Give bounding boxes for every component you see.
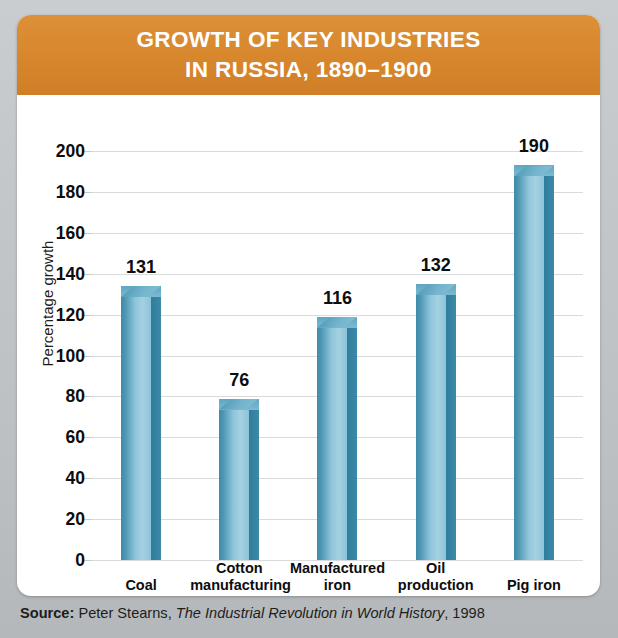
- source-author: Peter Stearns,: [78, 605, 171, 621]
- x-axis-category-label: Manufacturediron: [288, 560, 386, 594]
- x-axis-category-label: Coal: [92, 577, 190, 594]
- chart-title-line-1: GROWTH OF KEY INDUSTRIES: [136, 25, 480, 55]
- source-work-title: The Industrial Revolution in World Histo…: [176, 605, 444, 621]
- category-label-line: Coal: [92, 577, 190, 594]
- category-label-line: manufacturing: [190, 577, 288, 594]
- category-label-line: Pig iron: [485, 577, 583, 594]
- bar-side-face: [544, 165, 554, 560]
- bar-value-label: 190: [492, 136, 576, 157]
- category-label-line: Oil: [387, 560, 485, 577]
- y-axis-tick-label: 40: [66, 468, 85, 489]
- bar-side-face: [249, 399, 259, 560]
- category-label-line: Cotton: [190, 560, 288, 577]
- bar-top-face: [121, 286, 161, 297]
- bar-value-label: 131: [99, 257, 183, 278]
- bar-front-face: [317, 323, 347, 560]
- bar-top-face: [514, 165, 554, 176]
- bar[interactable]: [219, 405, 259, 560]
- source-label: Source:: [20, 605, 74, 621]
- bar-value-label: 76: [197, 370, 281, 391]
- bar-group[interactable]: 131Coal: [92, 95, 190, 560]
- y-axis-tick-label: 80: [66, 386, 85, 407]
- y-axis-tick-label: 60: [66, 427, 85, 448]
- chart-title-line-2: IN RUSSIA, 1890–1900: [185, 55, 432, 85]
- category-label-line: Manufactured: [288, 560, 386, 577]
- y-axis-tick-label: 180: [56, 181, 85, 202]
- bar-front-face: [514, 171, 544, 560]
- chart-header-banner: GROWTH OF KEY INDUSTRIES IN RUSSIA, 1890…: [17, 15, 600, 95]
- y-axis-tick-label: 120: [56, 304, 85, 325]
- plot-area: Percentage growth 2001801601401201008060…: [17, 95, 600, 596]
- category-label-line: iron: [288, 577, 386, 594]
- bar-value-label: 132: [394, 255, 478, 276]
- bar[interactable]: [514, 171, 554, 560]
- y-axis-tick-label: 160: [56, 222, 85, 243]
- bar-group[interactable]: 76Cottonmanufacturing: [190, 95, 288, 560]
- x-axis-category-label: Pig iron: [485, 577, 583, 594]
- y-axis-tick-label: 200: [56, 141, 85, 162]
- bar-front-face: [416, 290, 446, 560]
- category-label-line: production: [387, 577, 485, 594]
- y-axis-tick-label: 20: [66, 509, 85, 530]
- bar-top-face: [317, 317, 357, 328]
- source-year: , 1998: [444, 605, 485, 621]
- bar-front-face: [121, 292, 151, 560]
- x-axis-category-label: Oilproduction: [387, 560, 485, 594]
- bar-group[interactable]: 132Oilproduction: [387, 95, 485, 560]
- bar-value-label: 116: [295, 288, 379, 309]
- y-axis-title: Percentage growth: [39, 214, 56, 394]
- bar[interactable]: [317, 323, 357, 560]
- bar-front-face: [219, 405, 249, 560]
- bar-side-face: [446, 284, 456, 560]
- x-axis-category-label: Cottonmanufacturing: [190, 560, 288, 594]
- bar-side-face: [347, 317, 357, 560]
- bar-top-face: [416, 284, 456, 295]
- bar[interactable]: [121, 292, 161, 560]
- y-axis-tick-label: 140: [56, 263, 85, 284]
- bar-side-face: [151, 286, 161, 560]
- bar-group[interactable]: 116Manufacturediron: [288, 95, 386, 560]
- bar-group[interactable]: 190Pig iron: [485, 95, 583, 560]
- y-axis-tick-label: 0: [75, 550, 85, 571]
- bar[interactable]: [416, 290, 456, 560]
- gridlines-and-bars: 200180160140120100806040200131Coal76Cott…: [92, 95, 583, 596]
- chart-card: GROWTH OF KEY INDUSTRIES IN RUSSIA, 1890…: [17, 15, 600, 596]
- y-axis-tick-label: 100: [56, 345, 85, 366]
- source-citation: Source: Peter Stearns, The Industrial Re…: [20, 605, 610, 621]
- bar-top-face: [219, 399, 259, 410]
